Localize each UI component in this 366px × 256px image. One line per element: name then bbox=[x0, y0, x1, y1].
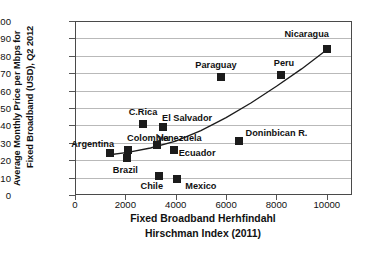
y-axis-title-line2: Fixed Broadband (USD), Q2 2012 bbox=[25, 26, 35, 168]
x-tick-mark bbox=[226, 195, 227, 200]
data-point-label: Doninbican R. bbox=[246, 128, 308, 138]
data-point-label: Nicaragua bbox=[284, 29, 328, 39]
y-tick-label: 40 bbox=[0, 120, 11, 131]
gridline bbox=[76, 108, 351, 109]
gridline bbox=[76, 56, 351, 57]
data-point-label: Venezuela bbox=[157, 133, 201, 143]
data-point-marker bbox=[106, 149, 114, 157]
data-point-label: El Salvador bbox=[162, 113, 212, 123]
gridline bbox=[76, 73, 351, 74]
gridline bbox=[76, 125, 351, 126]
data-point-marker bbox=[235, 137, 243, 145]
x-tick-mark bbox=[327, 195, 328, 200]
data-point-label: Argentina bbox=[71, 139, 114, 149]
y-tick-label: 60 bbox=[0, 85, 11, 96]
gridline bbox=[76, 160, 351, 161]
data-point-marker bbox=[124, 146, 132, 154]
data-point-label: Paraguay bbox=[195, 60, 236, 70]
data-point-marker bbox=[217, 73, 225, 81]
data-point-marker bbox=[277, 71, 285, 79]
data-point-marker bbox=[170, 146, 178, 154]
data-point-marker bbox=[173, 175, 181, 183]
gridline bbox=[76, 143, 351, 144]
x-tick-mark bbox=[276, 195, 277, 200]
x-axis-title: Fixed Broadband Herhfindahl Hirschman In… bbox=[40, 211, 366, 241]
y-tick-label: 20 bbox=[0, 155, 11, 166]
data-point-marker bbox=[139, 120, 147, 128]
data-point-label: C.Rica bbox=[129, 107, 158, 117]
y-tick-label: 90 bbox=[0, 33, 11, 44]
y-tick-label: 30 bbox=[0, 137, 11, 148]
gridline bbox=[76, 91, 351, 92]
y-tick-label: 50 bbox=[0, 103, 11, 114]
x-axis-title-line2: Hirschman Index (2011) bbox=[40, 226, 366, 241]
y-axis-title-line1: Average Monthly Price per Mbps for bbox=[12, 31, 22, 186]
x-tick-mark bbox=[125, 195, 126, 200]
data-point-marker bbox=[123, 154, 131, 162]
x-tick-label: 10000 bbox=[297, 199, 357, 210]
y-tick-label: 80 bbox=[0, 50, 11, 61]
chart-container: Average Monthly Price per Mbps for Fixed… bbox=[0, 0, 366, 256]
data-point-marker bbox=[159, 123, 167, 131]
data-point-label: Mexico bbox=[185, 181, 216, 191]
y-axis-title: Average Monthly Price per Mbps for Fixed… bbox=[0, 0, 40, 200]
data-point-label: Ecuador bbox=[179, 148, 216, 158]
y-tick-label: 10 bbox=[0, 172, 11, 183]
data-point-label: Chile bbox=[141, 181, 163, 191]
data-point-marker bbox=[155, 172, 163, 180]
data-point-label: Brazil bbox=[113, 165, 138, 175]
data-point-marker bbox=[323, 45, 331, 53]
x-tick-mark bbox=[176, 195, 177, 200]
data-point-label: Peru bbox=[274, 58, 294, 68]
gridline bbox=[76, 178, 351, 179]
x-axis-title-line1: Fixed Broadband Herhfindahl bbox=[40, 211, 366, 226]
y-tick-label: 70 bbox=[0, 68, 11, 79]
y-tick-label: 0 bbox=[0, 190, 11, 201]
x-tick-mark bbox=[75, 195, 76, 200]
y-tick-label: 100 bbox=[0, 16, 11, 27]
